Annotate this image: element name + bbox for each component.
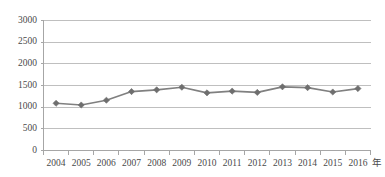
y-axis-tick-label: 2000 — [3, 59, 37, 69]
x-axis-tick-label: 2011 — [220, 159, 245, 169]
y-axis-tick-label: 1500 — [3, 81, 37, 91]
x-axis-tick-label: 2008 — [144, 159, 169, 169]
x-axis-tick-label: 2014 — [295, 159, 320, 169]
y-axis-tick-label: 0 — [3, 146, 37, 156]
x-axis-tick-label: 2007 — [119, 159, 144, 169]
x-axis-tick-label: 2012 — [245, 159, 270, 169]
x-axis-tick-label: 2009 — [169, 159, 194, 169]
x-axis-tick-label: 2010 — [194, 159, 219, 169]
y-axis-tick-label: 2500 — [3, 37, 37, 47]
y-axis-tick-label: 500 — [3, 124, 37, 134]
x-axis-unit-label: 年 — [372, 159, 382, 169]
x-axis-tick-label: 2016 — [345, 159, 370, 169]
x-axis-tick-label: 2013 — [270, 159, 295, 169]
chart-plot-area — [0, 0, 385, 177]
y-axis-tick-label: 3000 — [3, 16, 37, 26]
x-axis-ticks — [44, 151, 371, 155]
data-point-markers — [53, 84, 361, 108]
x-axis-tick-label: 2005 — [69, 159, 94, 169]
x-axis-tick-label: 2015 — [320, 159, 345, 169]
gridlines — [44, 21, 371, 129]
y-axis-tick-label: 1000 — [3, 102, 37, 112]
x-axis-tick-label: 2004 — [44, 159, 69, 169]
line-chart: 050010001500200025003000 200420052006200… — [0, 0, 385, 177]
x-axis-tick-label: 2006 — [94, 159, 119, 169]
